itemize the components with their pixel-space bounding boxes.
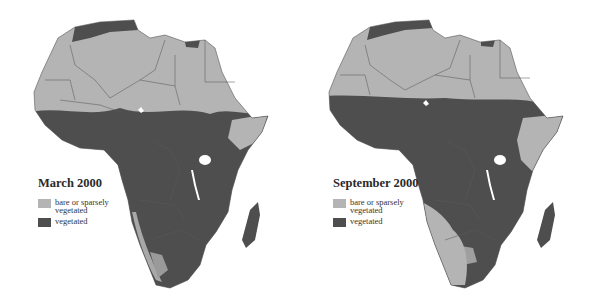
swatch-bare — [38, 199, 51, 208]
africa-map-september — [295, 0, 590, 306]
legend-march: March 2000 bare or sparsely vegetated ve… — [38, 176, 115, 230]
legend-label: bare or sparsely vegetated — [55, 198, 115, 214]
map-panel-september-2000: September 2000 bare or sparsely vegetate… — [295, 0, 590, 306]
legend-item-bare: bare or sparsely vegetated — [333, 198, 419, 214]
swatch-vegetated — [333, 218, 346, 227]
legend-september: September 2000 bare or sparsely vegetate… — [333, 176, 419, 230]
legend-label: vegetated — [350, 217, 410, 225]
africa-map-march — [0, 0, 295, 306]
map-panel-march-2000: March 2000 bare or sparsely vegetated ve… — [0, 0, 295, 306]
swatch-bare — [333, 199, 346, 208]
legend-item-bare: bare or sparsely vegetated — [38, 198, 115, 214]
swatch-vegetated — [38, 218, 51, 227]
legend-item-vegetated: vegetated — [38, 217, 115, 227]
map-title: March 2000 — [38, 176, 115, 191]
map-title: September 2000 — [333, 176, 419, 191]
legend-label: bare or sparsely vegetated — [350, 198, 410, 214]
legend-label: vegetated — [55, 217, 115, 225]
legend-item-vegetated: vegetated — [333, 217, 419, 227]
